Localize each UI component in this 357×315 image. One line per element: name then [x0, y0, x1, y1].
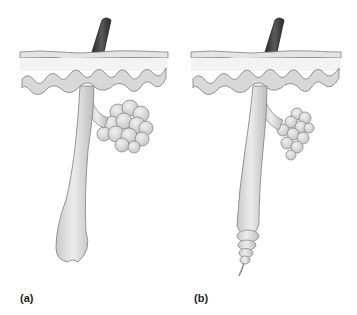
panel-label-b: (b) — [194, 292, 208, 304]
hair-follicle-diagram-b — [179, 0, 357, 290]
sebaceous-gland — [277, 108, 314, 160]
hair-follicle-diagram-a — [0, 0, 178, 290]
hair-follicle — [237, 86, 267, 238]
panel-b: (b) — [179, 0, 357, 315]
panel-a: (a) — [0, 0, 178, 315]
sebaceous-gland — [97, 100, 153, 153]
panel-label-a: (a) — [20, 292, 33, 304]
follicle-segmented-base — [237, 230, 259, 264]
hair-follicle — [56, 86, 94, 262]
hair-shaft — [265, 18, 284, 52]
hair-shaft — [92, 18, 111, 52]
hair-root-tail — [239, 263, 244, 276]
